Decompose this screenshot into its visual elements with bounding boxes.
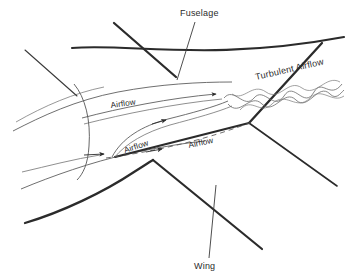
streamline-arrow-mid — [152, 120, 166, 124]
wing-leading-edge-lower — [25, 160, 153, 223]
wing-leader-line — [209, 185, 216, 258]
label-airflow-upper: Airflow — [110, 98, 136, 110]
diagram-canvas: Fuselage Wing Turbulent Airflow Airflow … — [0, 0, 345, 279]
fuselage-nose-shade — [16, 87, 104, 122]
streamline-nose-feed — [22, 155, 100, 172]
fuselage-group — [13, 37, 344, 189]
fuselage-top-edge — [72, 37, 344, 50]
wing-upper-left-group — [25, 23, 176, 96]
fuselage-cross-section — [74, 84, 89, 180]
streamline-upper — [82, 94, 216, 118]
streamlines-group — [22, 94, 252, 172]
wing-surface-line-upper — [25, 50, 77, 96]
streamline-nose-arrow — [84, 154, 104, 155]
wing-right-upper-edge — [249, 43, 322, 123]
label-wing: Wing — [194, 261, 215, 271]
airflow-diagram: Fuselage Wing Turbulent Airflow Airflow … — [0, 0, 345, 279]
fuselage-belly-line — [21, 141, 205, 189]
wing-right-lower-edge — [249, 123, 337, 186]
label-fuselage: Fuselage — [180, 8, 219, 18]
wing-trailing-edge-lower — [153, 160, 262, 249]
